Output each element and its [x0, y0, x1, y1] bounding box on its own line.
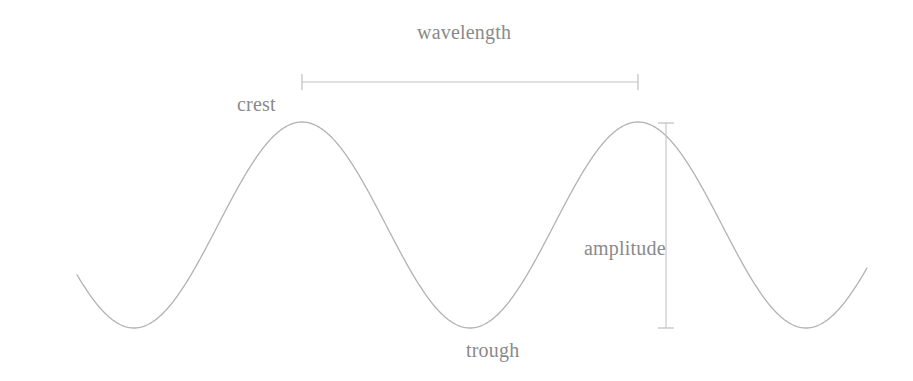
- wavelength-label: wavelength: [417, 22, 511, 42]
- wave-curve: [77, 122, 867, 328]
- wave-diagram-svg: [0, 0, 913, 381]
- wave-diagram-canvas: wavelength crest trough amplitude: [0, 0, 913, 381]
- amplitude-label: amplitude: [584, 238, 666, 258]
- crest-label: crest: [237, 94, 276, 114]
- amplitude-measure: [658, 123, 674, 328]
- trough-label: trough: [466, 340, 519, 360]
- wavelength-measure: [302, 74, 638, 90]
